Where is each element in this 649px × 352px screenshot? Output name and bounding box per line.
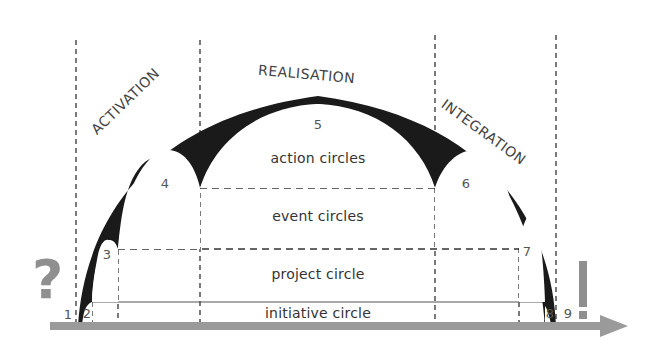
step-5: 5 bbox=[314, 117, 322, 132]
step-1: 1 bbox=[64, 307, 72, 322]
band-initiative-label: initiative circle bbox=[265, 305, 371, 321]
step-3: 3 bbox=[103, 247, 111, 262]
step-4: 4 bbox=[161, 176, 169, 191]
step-9: 9 bbox=[564, 306, 572, 321]
step-2: 2 bbox=[83, 306, 91, 321]
step-6: 6 bbox=[462, 176, 470, 191]
step-7: 7 bbox=[523, 244, 531, 259]
band-project-label: project circle bbox=[271, 266, 364, 282]
cycle-diagram bbox=[0, 0, 649, 352]
band-action-label: action circles bbox=[271, 150, 366, 166]
band-event-label: event circles bbox=[272, 208, 363, 224]
question-symbol: ? bbox=[32, 253, 63, 307]
exclamation-symbol bbox=[579, 261, 587, 319]
step-8: 8 bbox=[546, 306, 554, 321]
